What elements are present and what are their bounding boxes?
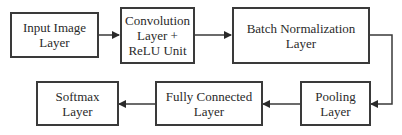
node-label-line: Layer <box>166 104 252 119</box>
node-label-line: Softmax <box>55 89 99 104</box>
node-softmax-layer: Softmax Layer <box>36 81 119 126</box>
node-label-line: Input Image <box>23 20 86 35</box>
node-label-line: ReLU Unit <box>125 43 190 58</box>
node-label-line: Layer <box>315 104 355 119</box>
node-label-line: Layer + <box>125 28 190 43</box>
node-fully-connected-layer: Fully Connected Layer <box>155 81 263 126</box>
node-label-line: Convolution <box>125 13 190 28</box>
node-label-line: Fully Connected <box>166 89 252 104</box>
node-label-line: Pooling <box>315 89 355 104</box>
node-label-line: Batch Normalization <box>247 21 356 36</box>
node-convolution-relu-layer: Convolution Layer + ReLU Unit <box>120 7 195 64</box>
node-label-line: Layer <box>23 35 86 50</box>
arrow-bn-to-pool <box>369 35 392 104</box>
node-pooling-layer: Pooling Layer <box>300 81 371 126</box>
node-batch-normalization-layer: Batch Normalization Layer <box>232 7 370 64</box>
node-label-line: Layer <box>55 104 99 119</box>
node-label-line: Layer <box>247 36 356 51</box>
node-input-image-layer: Input Image Layer <box>10 12 99 58</box>
